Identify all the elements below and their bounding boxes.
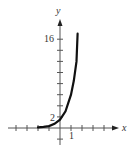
exponential-graph xyxy=(0,0,132,149)
y-axis-label: y xyxy=(56,6,60,16)
y-axis-arrow-icon xyxy=(58,19,63,26)
curve-line xyxy=(38,34,78,128)
y-tick-label-16: 16 xyxy=(44,34,54,44)
x-axis-label: x xyxy=(122,123,126,133)
axes xyxy=(8,24,114,145)
y-tick-label-2: 2 xyxy=(50,113,55,123)
x-tick-label-1: 1 xyxy=(69,131,74,141)
x-axis-arrow-icon xyxy=(112,126,119,131)
